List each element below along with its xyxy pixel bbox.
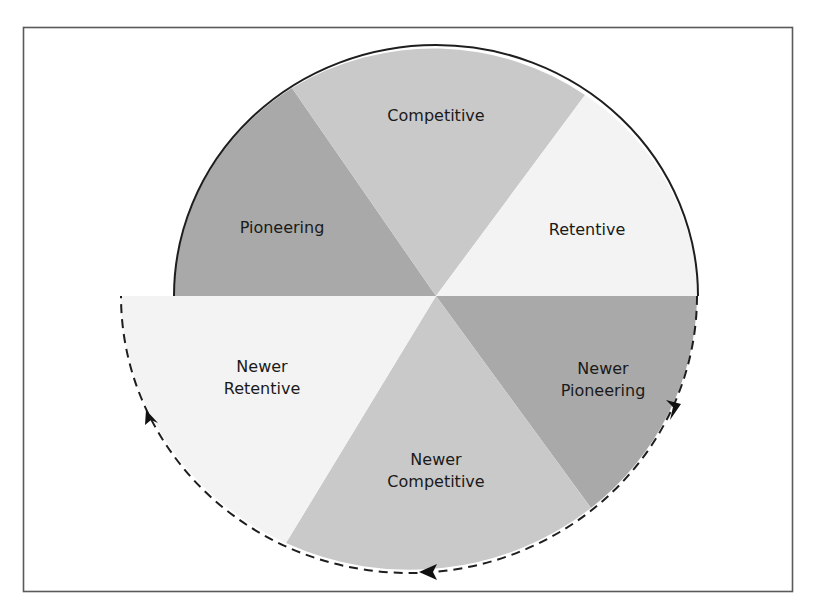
- label-retentive: Retentive: [549, 220, 626, 239]
- label-pioneering: Pioneering: [240, 218, 325, 237]
- label-newer-pioneering-line2: Pioneering: [561, 381, 646, 400]
- label-newer-competitive-line1: Newer: [410, 450, 462, 469]
- label-newer-retentive-line2: Retentive: [224, 379, 301, 398]
- label-newer-retentive-line1: Newer: [236, 357, 288, 376]
- cycle-diagram: Competitive Pioneering Retentive Newer R…: [0, 0, 815, 608]
- label-competitive: Competitive: [387, 106, 484, 125]
- label-newer-pioneering-line1: Newer: [577, 359, 629, 378]
- label-newer-competitive-line2: Competitive: [387, 472, 484, 491]
